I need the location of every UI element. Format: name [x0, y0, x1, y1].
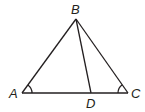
vertex-label-c: C	[131, 86, 141, 101]
vertex-label-a: A	[8, 86, 18, 101]
point-label-d: D	[86, 96, 95, 111]
angle-mark-c	[118, 85, 122, 93]
segment-ab	[22, 19, 76, 93]
vertex-label-b: B	[71, 2, 80, 17]
triangle-diagram: B A C D	[0, 0, 145, 112]
angle-mark-a	[28, 85, 32, 93]
